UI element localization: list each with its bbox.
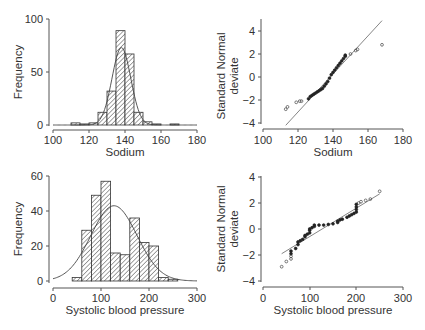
data-point: [328, 77, 331, 80]
panel-sodium-normal-plot: 4 2 0 −2 −4 100 120 140 160 180 Sodium S…: [215, 19, 412, 158]
bars: [72, 181, 178, 281]
data-point: [295, 101, 298, 104]
panel-sodium-histogram: 0 50 100 100 120 140 160 180 Sodium Freq…: [12, 13, 206, 158]
histogram-bar: [130, 218, 140, 281]
x-ticks: 100 120 140 160 180: [44, 130, 206, 146]
x-axis-title: Sodium: [106, 146, 145, 158]
data-point: [280, 265, 283, 268]
y-tick-label: 60: [31, 170, 43, 182]
x-tick-label: 200: [347, 292, 365, 304]
y-tick-label: 0: [37, 119, 43, 131]
y-tick-label: −2: [242, 94, 255, 106]
x-tick-label: 300: [394, 292, 412, 304]
x-tick-label: 120: [80, 134, 98, 146]
y-tick-label: −4: [242, 117, 255, 129]
panel-sbp-histogram: 0 20 40 60 0 100 200 300 Systolic blood …: [12, 170, 206, 316]
histogram-bar: [134, 112, 143, 125]
x-ticks: 0 100 200 300: [50, 288, 206, 304]
y-axis-title: Standard Normal: [215, 186, 227, 273]
x-tick-label: 140: [116, 134, 134, 146]
x-tick-label: 0: [260, 292, 266, 304]
y-tick-label: 2: [249, 48, 255, 60]
y-tick-label: 2: [249, 197, 255, 209]
data-point: [322, 224, 325, 227]
y-ticks: 0 20 40 60: [31, 170, 49, 287]
y-tick-label: −4: [242, 275, 255, 287]
y-tick-label: 100: [25, 13, 43, 25]
histogram-bar: [159, 278, 169, 282]
y-axis-title: deviate: [228, 210, 240, 247]
y-axis-title: Frequency: [12, 202, 24, 257]
histogram-bar: [120, 255, 130, 281]
y-tick-label: 0: [249, 223, 255, 235]
data-point: [326, 80, 329, 83]
data-point: [313, 224, 316, 227]
data-point: [364, 199, 367, 202]
x-tick-label: 160: [152, 134, 170, 146]
data-point: [327, 223, 330, 226]
histogram-bar: [101, 181, 111, 281]
x-tick-label: 100: [301, 292, 319, 304]
x-tick-label: 0: [50, 292, 56, 304]
histogram-bar: [72, 278, 82, 282]
histogram-bar: [116, 31, 125, 125]
x-tick-label: 180: [188, 134, 206, 146]
y-ticks: 4 2 0 −2 −4: [242, 25, 261, 129]
data-point: [301, 238, 304, 241]
points: [284, 43, 383, 110]
panel-sbp-normal-plot: 4 2 0 −2 −4 0 100 200 300 Systolic blood…: [215, 171, 412, 316]
x-tick-label: 180: [394, 134, 412, 146]
histogram-bar: [111, 253, 121, 281]
data-point: [381, 43, 384, 46]
data-point: [286, 106, 289, 109]
x-ticks: 0 100 200 300: [260, 287, 412, 304]
bars: [71, 31, 179, 125]
y-tick-label: 0: [249, 71, 255, 83]
points: [280, 190, 381, 268]
x-ticks: 100 120 140 160 180: [254, 129, 412, 146]
y-axis-title: Frequency: [12, 45, 24, 100]
data-point: [341, 218, 344, 221]
x-tick-label: 120: [289, 134, 307, 146]
y-tick-label: 4: [249, 171, 255, 183]
x-axis-title: Systolic blood pressure: [274, 304, 393, 316]
x-axis-title: Sodium: [314, 146, 353, 158]
data-point: [378, 190, 381, 193]
data-point: [285, 260, 288, 263]
y-tick-label: 4: [249, 25, 255, 37]
y-axis-title: deviate: [228, 57, 240, 94]
data-point: [294, 247, 297, 250]
x-tick-label: 100: [254, 134, 272, 146]
data-point: [318, 224, 321, 227]
data-point: [332, 222, 335, 225]
y-tick-label: 40: [31, 205, 43, 217]
y-tick-label: 50: [31, 66, 43, 78]
y-tick-label: −2: [242, 249, 255, 261]
data-point: [290, 250, 293, 253]
x-tick-label: 100: [44, 134, 62, 146]
y-axis-title: Standard Normal: [215, 33, 227, 120]
x-tick-label: 140: [324, 134, 342, 146]
data-point: [344, 54, 347, 57]
x-tick-label: 200: [140, 292, 158, 304]
y-ticks: 4 2 0 −2 −4: [242, 171, 261, 287]
figure: 0 50 100 100 120 140 160 180 Sodium Freq…: [0, 0, 425, 330]
y-tick-label: 20: [31, 240, 43, 252]
x-tick-label: 300: [188, 292, 206, 304]
histogram-bar: [91, 195, 101, 281]
x-tick-label: 160: [359, 134, 377, 146]
y-tick-label: 0: [37, 275, 43, 287]
y-ticks: 0 50 100: [25, 13, 49, 131]
data-point: [300, 100, 303, 103]
x-axis-title: Systolic blood pressure: [66, 304, 185, 316]
data-point: [360, 200, 363, 203]
x-tick-label: 100: [92, 292, 110, 304]
